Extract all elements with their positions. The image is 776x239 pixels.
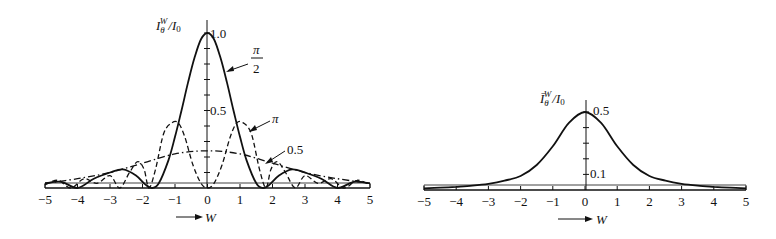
x-tick-label: 2 (269, 192, 276, 207)
arrow-right-icon (195, 214, 203, 220)
x-tick-label: 0 (582, 194, 589, 209)
annotation-pi-label: π (272, 111, 279, 126)
x-tick-label: −4 (71, 192, 85, 207)
right-x-axis-label: W (558, 212, 608, 227)
x-tick-label: −3 (103, 192, 117, 207)
right-y-tick-label-01: 0.1 (590, 166, 606, 181)
x-tick-label: 4 (711, 194, 718, 209)
right-series (424, 112, 746, 188)
annotation-pi: π (249, 111, 279, 132)
x-tick-label: 4 (334, 192, 341, 207)
annotation-half: 0.5 (265, 142, 303, 164)
figure: −5−4−3−2−1012345 IθW/I0 1.0 0.5 π 2 π 0.… (0, 0, 776, 239)
x-tick-label: −5 (417, 194, 431, 209)
annotation-pi-half-num: π (253, 42, 260, 57)
x-tick-label: 5 (743, 194, 750, 209)
left-y-tick-label-05: 0.5 (210, 103, 226, 118)
x-tick-label: −5 (38, 192, 52, 207)
annotation-pi-half-den: 2 (253, 61, 260, 76)
x-tick-label: 3 (678, 194, 685, 209)
x-tick-label: 5 (367, 192, 374, 207)
annotation-half-label: 0.5 (287, 142, 303, 157)
x-tick-label: −1 (168, 192, 182, 207)
x-tick-label: 3 (302, 192, 309, 207)
left-y-axis-label: IθW/I0 (155, 16, 181, 35)
arrow-right-icon (585, 216, 593, 222)
arrowhead-icon (249, 125, 257, 132)
x-tick-label: −3 (481, 194, 495, 209)
arrowhead-icon (226, 66, 234, 72)
x-tick-label: 1 (614, 194, 621, 209)
x-tick-label: 2 (646, 194, 653, 209)
x-tick-label: −2 (514, 194, 528, 209)
arrowhead-icon (265, 157, 273, 164)
x-tick-label: −1 (546, 194, 560, 209)
right-y-axis-label: ĪθW/I0 (539, 89, 565, 108)
right-x-ticks: −5−4−3−2−1012345 (417, 185, 749, 209)
left-chart: −5−4−3−2−1012345 IθW/I0 1.0 0.5 π 2 π 0.… (38, 16, 373, 225)
left-x-label-text: W (205, 210, 217, 225)
x-tick-label: 1 (237, 192, 244, 207)
left-y-tick-label-1: 1.0 (210, 26, 226, 41)
x-tick-label: −2 (136, 192, 150, 207)
right-chart: −5−4−3−2−1012345 ĪθW/I0 0.5 0.1 W (417, 89, 749, 227)
left-x-ticks: −5−4−3−2−1012345 (38, 183, 373, 207)
series-solid-line (424, 112, 746, 188)
left-x-axis-label: W (176, 210, 217, 225)
x-tick-label: 0 (204, 192, 211, 207)
right-y-tick-label-05: 0.5 (593, 103, 609, 118)
x-tick-label: −4 (449, 194, 463, 209)
annotation-pi-half: π 2 (226, 42, 263, 76)
right-x-label-text: W (596, 212, 608, 227)
